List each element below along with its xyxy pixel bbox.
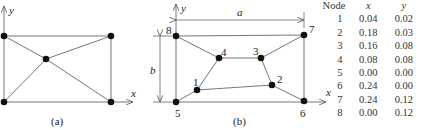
node-dot (1, 99, 8, 106)
y-axis-label-b: y (180, 2, 186, 14)
node-6 (301, 98, 308, 105)
cell-x: 0.24 (350, 79, 387, 92)
node-dot (108, 99, 115, 106)
cell-y: 0.03 (387, 26, 421, 39)
table-row: 60.240.00 (318, 79, 421, 92)
edge-8-7 (176, 35, 304, 36)
cell-y: 0.12 (387, 106, 421, 119)
cell-node: 6 (318, 79, 350, 92)
edge-7-3 (261, 35, 304, 58)
caption-a: (a) (51, 115, 64, 128)
cell-x: 0.18 (350, 26, 387, 39)
cell-x: 0.00 (350, 66, 387, 79)
node-label-4: 4 (221, 46, 227, 58)
node-dot (1, 33, 8, 40)
edge-3-2 (261, 58, 272, 85)
table-row: 80.000.12 (318, 106, 421, 119)
panel-a-mesh (4, 6, 133, 102)
node-2 (269, 82, 276, 89)
cell-node: 5 (318, 66, 350, 79)
table-row: 70.240.12 (318, 93, 421, 106)
x-axis-label-a: x (130, 87, 136, 99)
node-8 (173, 33, 180, 40)
edge-8-4 (176, 36, 219, 58)
header-y: y (387, 0, 421, 12)
node-dot (43, 56, 50, 63)
header-x: x (350, 0, 387, 12)
cell-x: 0.08 (350, 53, 387, 66)
edge-6-2 (272, 85, 304, 101)
node-label-2: 2 (277, 73, 283, 85)
edge-diag-a (4, 59, 46, 102)
node-label-1: 1 (193, 76, 199, 88)
node-label-7: 7 (309, 23, 315, 35)
table-row: 10.040.02 (318, 12, 421, 25)
node-3 (258, 55, 265, 62)
edge-diag-a (46, 36, 111, 59)
dimension-a-label: a (237, 6, 243, 18)
y-axis-label-a: y (8, 4, 14, 16)
cell-node: 7 (318, 93, 350, 106)
cell-y: 0.02 (387, 12, 421, 25)
panel-b-nodes (173, 32, 308, 106)
cell-y: 0.08 (387, 39, 421, 52)
cell-y: 0.00 (387, 66, 421, 79)
cell-x: 0.16 (350, 39, 387, 52)
dimension-b (153, 36, 172, 102)
node-label-8: 8 (166, 24, 172, 36)
edge-2-1 (197, 85, 272, 90)
table-row: 40.080.08 (318, 53, 421, 66)
edge-diag-a (4, 36, 46, 59)
caption-b: (b) (233, 115, 246, 128)
node-coordinates-table: Node x y 10.040.02 20.180.03 30.160.08 4… (318, 0, 421, 120)
header-node: Node (318, 0, 350, 12)
cell-x: 0.04 (350, 12, 387, 25)
edge-1-4 (197, 58, 219, 90)
node-5 (173, 99, 180, 106)
table-row: 50.000.00 (318, 66, 421, 79)
node-dot (108, 33, 115, 40)
cell-node: 2 (318, 26, 350, 39)
node-label-6: 6 (300, 107, 306, 119)
cell-y: 0.08 (387, 53, 421, 66)
table-row: 30.160.08 (318, 39, 421, 52)
cell-y: 0.00 (387, 79, 421, 92)
table-header-row: Node x y (318, 0, 421, 12)
cell-y: 0.12 (387, 93, 421, 106)
node-label-5: 5 (175, 107, 181, 119)
node-7 (301, 32, 308, 39)
cell-node: 3 (318, 39, 350, 52)
edge-5-1 (176, 90, 197, 102)
node-label-3: 3 (253, 45, 259, 57)
dimension-b-label: b (150, 64, 156, 76)
edge-diag-a (46, 59, 111, 102)
cell-node: 4 (318, 53, 350, 66)
table-row: 20.180.03 (318, 26, 421, 39)
cell-x: 0.24 (350, 93, 387, 106)
cell-x: 0.00 (350, 106, 387, 119)
cell-node: 1 (318, 12, 350, 25)
cell-node: 8 (318, 106, 350, 119)
